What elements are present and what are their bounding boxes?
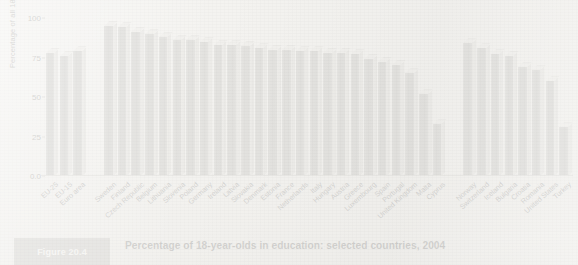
bar-side-face: [126, 24, 130, 176]
bar: [131, 32, 139, 176]
bar-front-face: [46, 53, 54, 176]
bar-front-face: [145, 34, 153, 176]
figure-number-tag: Figure 20.4: [14, 238, 110, 265]
bar-side-face: [250, 43, 254, 176]
bar-front-face: [241, 46, 249, 176]
bar-side-face: [68, 52, 72, 176]
bar-side-face: [167, 33, 171, 176]
bar: [46, 53, 54, 176]
y-tick-label: 50: [32, 93, 41, 102]
bar-side-face: [54, 49, 58, 176]
bar-side-face: [540, 67, 544, 176]
bar-front-face: [173, 40, 181, 176]
bar-front-face: [104, 26, 112, 176]
bar-side-face: [291, 46, 295, 176]
bar: [491, 54, 499, 176]
bar: [173, 40, 181, 176]
y-tick-label: 100: [28, 14, 41, 23]
bar: [282, 50, 290, 176]
bar-side-face: [527, 63, 531, 176]
bar-front-face: [392, 65, 400, 176]
bar: [532, 70, 540, 176]
bar: [433, 124, 441, 176]
bar: [214, 45, 222, 176]
bar: [118, 27, 126, 176]
bar-front-face: [477, 48, 485, 176]
bar-side-face: [181, 37, 185, 176]
bar-front-face: [337, 53, 345, 176]
y-tick-mark: [42, 97, 45, 98]
bar: [60, 56, 68, 176]
y-tick-mark: [42, 18, 45, 19]
bar-front-face: [118, 27, 126, 176]
bar-side-face: [428, 90, 432, 176]
bar-side-face: [154, 30, 158, 176]
bar-side-face: [568, 123, 572, 176]
bar-side-face: [318, 48, 322, 176]
bar: [241, 46, 249, 176]
bar: [73, 51, 81, 176]
bar-front-face: [364, 59, 372, 176]
bar-front-face: [73, 51, 81, 176]
bar: [337, 53, 345, 176]
bar: [546, 81, 554, 176]
bar: [104, 26, 112, 176]
bar: [200, 42, 208, 176]
x-axis-labels: EU-25EU-15Euro areaSwedenFinlandCzech Re…: [46, 178, 573, 232]
bar: [186, 40, 194, 176]
bar-front-face: [282, 50, 290, 176]
bar: [392, 65, 400, 176]
bar-front-face: [491, 54, 499, 176]
bar-front-face: [186, 40, 194, 176]
bar: [159, 37, 167, 176]
bar-front-face: [310, 51, 318, 176]
bar: [255, 48, 263, 176]
bar-side-face: [236, 41, 240, 176]
bar-side-face: [373, 55, 377, 176]
bar-side-face: [263, 44, 267, 176]
bar-front-face: [419, 94, 427, 176]
bar-front-face: [131, 32, 139, 176]
bar-front-face: [60, 56, 68, 176]
bar-front-face: [463, 43, 471, 176]
bar: [378, 62, 386, 176]
y-tick-mark: [42, 57, 45, 58]
x-axis-baseline: [41, 175, 573, 176]
bar: [419, 94, 427, 176]
bar: [351, 54, 359, 176]
bar-front-face: [546, 81, 554, 176]
bar-side-face: [332, 49, 336, 176]
bar-side-face: [208, 38, 212, 176]
bar-side-face: [359, 51, 363, 176]
bar-front-face: [505, 56, 513, 176]
bar: [296, 51, 304, 176]
bar: [227, 45, 235, 176]
bar: [477, 48, 485, 176]
bar-chart: Percentage of all 18-year-olds 0.0255075…: [46, 18, 573, 176]
bar-front-face: [255, 48, 263, 176]
bar: [268, 50, 276, 176]
bar: [463, 43, 471, 176]
bar-side-face: [441, 120, 445, 176]
figure-caption-bar: Figure 20.4 Percentage of 18-year-olds i…: [0, 232, 578, 265]
bar-front-face: [351, 54, 359, 176]
bar-side-face: [513, 52, 517, 176]
bar-side-face: [140, 29, 144, 176]
bar-front-face: [518, 67, 526, 176]
bar-side-face: [472, 40, 476, 176]
bar-side-face: [195, 37, 199, 176]
bar-side-face: [386, 59, 390, 176]
y-tick-mark: [42, 136, 45, 137]
bar: [364, 59, 372, 176]
bar-front-face: [214, 45, 222, 176]
bar-side-face: [113, 22, 117, 176]
bar-front-face: [200, 42, 208, 176]
bar-side-face: [222, 41, 226, 176]
bar: [559, 127, 567, 176]
bar-front-face: [532, 70, 540, 176]
bar-front-face: [159, 37, 167, 176]
bar-front-face: [268, 50, 276, 176]
bar-side-face: [499, 51, 503, 176]
bar-side-face: [486, 44, 490, 176]
y-axis-title: Percentage of all 18-year-olds: [8, 0, 17, 68]
